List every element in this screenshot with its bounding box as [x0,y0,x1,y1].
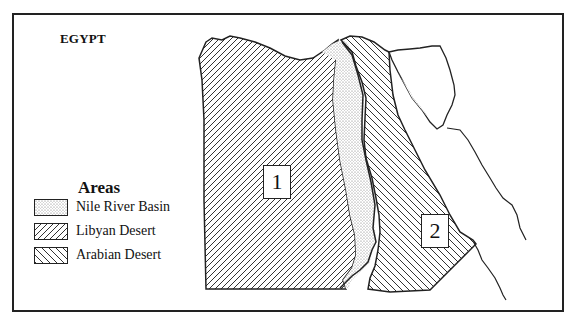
dots-pattern-icon [34,199,68,216]
map-frame [12,13,564,312]
legend-label: Nile River Basin [76,199,170,215]
legend-label: Arabian Desert [76,247,161,263]
legend-item-arabian-desert: Arabian Desert [34,246,161,264]
legend-label: Libyan Desert [76,223,156,239]
legend-title: Areas [78,178,120,198]
legend-item-libyan-desert: Libyan Desert [34,222,156,240]
backward-hatch-pattern-icon [34,247,68,264]
region-label-1: 1 [263,165,291,199]
map-title: EGYPT [60,31,106,47]
legend-item-nile-river-basin: Nile River Basin [34,198,170,216]
region-label-1-text: 1 [272,169,283,195]
forward-hatch-pattern-icon [34,223,68,240]
region-label-2-text: 2 [430,218,441,244]
region-label-2: 2 [421,214,449,248]
